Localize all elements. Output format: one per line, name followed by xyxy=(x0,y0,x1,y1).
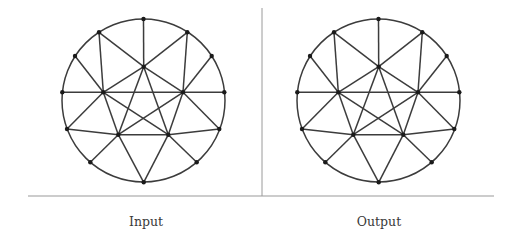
graph-node xyxy=(166,133,170,137)
graph-node xyxy=(377,65,381,69)
graph-edge xyxy=(379,32,423,66)
graph-node xyxy=(416,90,420,94)
output-caption: Output xyxy=(357,214,401,229)
graph-node xyxy=(430,160,434,164)
graph-edge xyxy=(168,135,196,163)
graph-edge xyxy=(334,32,379,66)
graph-edge xyxy=(379,67,418,93)
graph-edge xyxy=(310,56,338,92)
graph-edge xyxy=(418,32,422,92)
graph-node xyxy=(377,180,381,184)
graph-node xyxy=(401,133,405,137)
graph-edge xyxy=(183,92,219,129)
graph-node xyxy=(420,30,424,34)
graph-node xyxy=(332,30,336,34)
graph-edge xyxy=(325,135,353,163)
graph-edge xyxy=(403,135,431,163)
graph-edge xyxy=(168,92,183,134)
graph-edge xyxy=(338,92,403,134)
graph-edge xyxy=(353,135,378,183)
graph-node xyxy=(295,90,299,94)
graph-node xyxy=(210,54,214,58)
graph-node xyxy=(185,30,189,34)
graph-edge xyxy=(403,92,418,134)
output-graph xyxy=(295,17,461,185)
input-caption: Input xyxy=(129,214,163,229)
graph-node xyxy=(452,127,456,131)
graph-edge xyxy=(144,135,169,183)
graph-edge xyxy=(379,67,404,135)
graph-node xyxy=(308,54,312,58)
graph-node xyxy=(88,160,92,164)
graph-node xyxy=(97,30,101,34)
graph-edge xyxy=(379,135,404,183)
graph-node xyxy=(142,65,146,69)
graph-edge xyxy=(418,56,447,92)
graph-edge xyxy=(183,32,187,92)
graph-node xyxy=(141,17,145,21)
graph-node xyxy=(65,127,69,131)
graph-edge xyxy=(144,67,169,135)
graph-edge xyxy=(99,32,144,66)
graph-node xyxy=(217,127,221,131)
graph-node xyxy=(323,160,327,164)
graph-node xyxy=(457,90,461,94)
graph-edge xyxy=(144,67,183,93)
graph-node xyxy=(181,90,185,94)
graph-node xyxy=(445,54,449,58)
graph-node xyxy=(336,90,340,94)
graph-edge xyxy=(103,92,168,134)
graph-node xyxy=(195,160,199,164)
graph-edge xyxy=(103,67,143,93)
graph-edge xyxy=(118,135,143,183)
graph-edge xyxy=(418,92,454,129)
graph-edge xyxy=(353,67,378,135)
graph-comparison-figure xyxy=(0,0,519,240)
graph-node xyxy=(60,90,64,94)
graph-edge xyxy=(99,32,103,92)
graph-edge xyxy=(338,67,378,93)
graph-edge xyxy=(183,56,212,92)
input-graph xyxy=(60,17,226,185)
graph-node xyxy=(73,54,77,58)
graph-node xyxy=(300,127,304,131)
graph-edge xyxy=(353,92,418,134)
graph-node xyxy=(351,133,355,137)
graph-edge xyxy=(118,92,183,134)
graph-edge xyxy=(103,92,118,134)
graph-edge xyxy=(338,92,353,134)
graph-node xyxy=(142,180,146,184)
graph-node xyxy=(101,90,105,94)
graph-edge xyxy=(90,135,118,163)
graph-edge xyxy=(334,32,338,92)
graph-node xyxy=(116,133,120,137)
graph-edge xyxy=(67,129,118,135)
graph-edge xyxy=(118,67,143,135)
graph-edge xyxy=(75,56,103,92)
graph-edge xyxy=(168,129,219,135)
graph-node xyxy=(222,90,226,94)
graph-edge xyxy=(67,92,103,129)
graph-node xyxy=(376,17,380,21)
graph-edge xyxy=(403,129,454,135)
graph-edge xyxy=(302,92,338,129)
graph-edge xyxy=(144,32,188,66)
graph-edge xyxy=(302,129,353,135)
